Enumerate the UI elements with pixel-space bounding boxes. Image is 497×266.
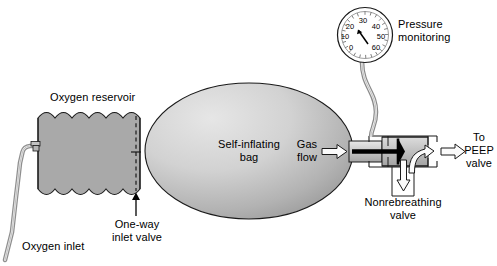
oxygen-reservoir-label: Oxygen reservoir [50,91,135,104]
nonrebreathing-valve-label: Nonrebreathing valve [358,196,448,222]
gauge-tick-10: 10 [338,33,352,41]
to-peep-valve-label: To PEEP valve [462,131,496,170]
one-way-valve-arrow [132,193,140,217]
one-way-inlet-valve-label: One-way inlet valve [96,218,178,244]
self-inflating-bag-label: Self-inflating bag [206,138,292,164]
gauge-tick-0: 0 [344,44,358,52]
oxygen-inlet-label: Oxygen inlet [22,240,84,253]
pressure-monitor-tube [362,62,376,137]
gauge-tick-30: 30 [356,17,370,25]
diagram-canvas: Oxygen reservoir Oxygen inlet One-way in… [0,0,497,266]
gauge-tick-50: 50 [374,33,388,41]
pressure-monitoring-label: Pressure monitoring [398,18,450,44]
gas-flow-label: Gas flow [292,138,322,164]
gauge-tick-60: 60 [369,44,383,52]
oxygen-reservoir-shape [38,113,140,195]
gauge-tick-20: 20 [343,23,357,31]
gauge-tick-40: 40 [369,23,383,31]
